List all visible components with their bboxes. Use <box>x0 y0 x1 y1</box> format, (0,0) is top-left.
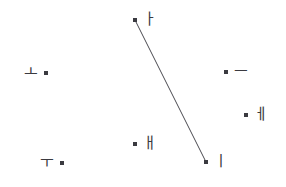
data-point-marker <box>44 71 48 75</box>
data-point-label: ㅡ <box>234 64 248 79</box>
data-point-label: ㅐ <box>143 136 157 151</box>
data-point-marker <box>60 161 64 165</box>
data-point-label: ㅔ <box>254 107 268 122</box>
data-point-label: ㅏ <box>143 12 157 27</box>
data-point-marker <box>244 113 248 117</box>
data-point-label: ㅗ <box>24 65 38 80</box>
data-point-marker <box>224 70 228 74</box>
diagram-canvas: ㅏㅗㅡㅔㅐㅜㅣ <box>0 0 286 187</box>
data-point-marker <box>204 160 208 164</box>
data-point-marker <box>133 142 137 146</box>
data-point-marker <box>133 18 137 22</box>
data-point-label: ㅣ <box>214 154 228 169</box>
data-point-label: ㅜ <box>40 155 54 170</box>
